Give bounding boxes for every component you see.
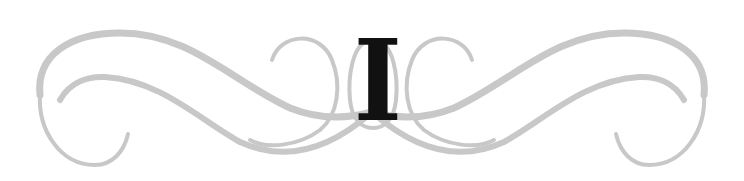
left-outer-curl bbox=[40, 95, 128, 165]
chapter-ornament: I bbox=[0, 0, 744, 181]
right-outer-curl bbox=[616, 95, 704, 165]
chapter-number-letter: I bbox=[354, 26, 394, 136]
